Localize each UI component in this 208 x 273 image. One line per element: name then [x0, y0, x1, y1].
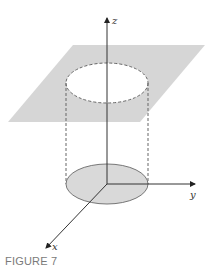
x-axis-label: x	[52, 241, 58, 252]
3d-cylinder-diagram: z y x	[0, 0, 208, 273]
z-axis-label: z	[111, 15, 118, 26]
y-axis-label: y	[189, 189, 196, 200]
figure-caption: FIGURE 7	[5, 255, 57, 267]
